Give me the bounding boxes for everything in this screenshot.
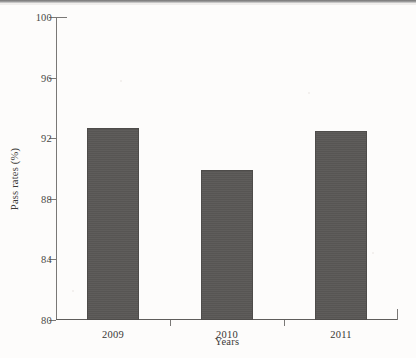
x-tick-label: 2011	[330, 329, 351, 340]
chart-page: Pass rates (%) Years 8084889296100 20092…	[0, 0, 416, 358]
y-axis-spine	[56, 17, 57, 320]
frame-corner-top-left	[56, 17, 67, 18]
plot-area: 8084889296100 200920102011	[56, 17, 398, 320]
y-tick-label: 92	[41, 133, 52, 144]
y-tick-label: 80	[41, 315, 52, 326]
scan-artifact-band-light	[0, 3, 416, 5]
y-axis-title: Pass rates (%)	[9, 148, 20, 210]
y-tick-label: 100	[36, 12, 52, 23]
y-tick-label: 88	[41, 193, 52, 204]
x-tick-mark	[284, 320, 285, 326]
y-tick-label: 84	[41, 254, 52, 265]
x-tick-label: 2010	[216, 329, 238, 340]
bar-2009	[87, 128, 138, 320]
bar-2010	[201, 170, 252, 320]
y-tick-label: 96	[41, 72, 52, 83]
x-tick-mark	[170, 320, 171, 326]
x-tick-label: 2009	[102, 329, 124, 340]
frame-corner-bottom-right	[397, 309, 398, 320]
bar-2011	[315, 131, 366, 320]
